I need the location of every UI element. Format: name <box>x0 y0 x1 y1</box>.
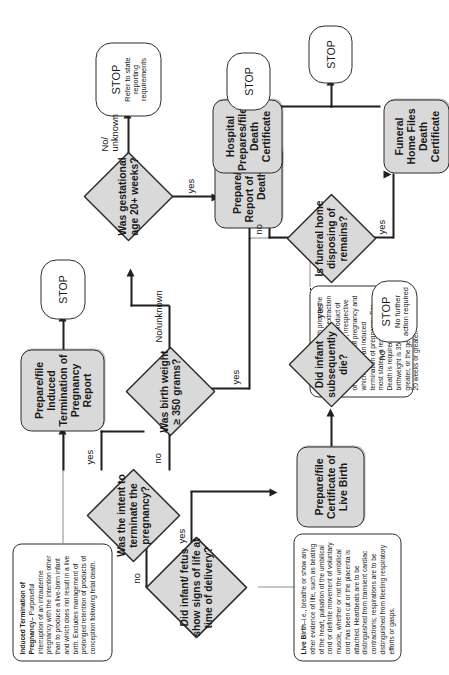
decision-infant-died[interactable]: Did infant subsequently die? <box>288 321 374 407</box>
decision-signs-of-life-label: Did infant/ fetus show signs of life at … <box>178 536 214 638</box>
note-induced-termination-text: Purposeful interruption of an intrauteri… <box>27 555 95 654</box>
decision-intent-terminate-label: Was the intent to terminate the pregnanc… <box>115 468 151 562</box>
arrow-infant-died <box>326 408 334 416</box>
edge-gestation-no-h <box>127 116 129 153</box>
edge-funeral-stop-v <box>330 106 380 108</box>
decision-birth-weight[interactable]: Was birth weight ≥ 350 grams? <box>125 346 215 436</box>
label-signs-no: no <box>131 573 141 583</box>
decision-infant-died-label: Did infant subsequently die? <box>313 321 349 407</box>
arrow-livebirth-cert <box>269 489 277 497</box>
edge-certs-stop-h <box>330 83 332 107</box>
process-funeral-home-death-certificate[interactable]: Funeral Home Files Death Certificate <box>383 99 449 173</box>
label-funeral-yes: yes <box>376 219 386 234</box>
edge-gestation-yes-v <box>171 196 214 198</box>
edge-intent-yes-h <box>100 430 102 470</box>
edge-weight-yes-v <box>211 388 249 390</box>
edge-funeral-yes-h <box>392 173 394 238</box>
terminator-stop-state-label: STOP <box>109 64 122 94</box>
decision-intent-terminate[interactable]: Was the intent to terminate the pregnanc… <box>86 468 180 562</box>
terminator-stop-state-sublabel: Refer to state reporting requirements <box>123 46 147 112</box>
note-live-birth-term: Live Birth <box>299 624 306 654</box>
decision-birth-weight-label: Was birth weight ≥ 350 grams? <box>158 346 182 436</box>
edge-weight-nounknown-h2 <box>130 274 132 306</box>
edge-itop-stop <box>62 319 64 349</box>
process-itop-report-label: Prepare/file Induced Termination of Preg… <box>32 353 93 427</box>
edge-intent-yes-h2 <box>62 432 64 470</box>
edge-weight-yes-h <box>248 209 250 389</box>
process-hospital-death-certificate-label: Hospital Prepares/files Death Certificat… <box>223 102 272 171</box>
process-live-birth-certificate[interactable]: Prepare/file Certificate of Live Birth <box>296 446 364 527</box>
label-weight-yes: yes <box>230 369 240 384</box>
terminator-stop-state[interactable]: STOP Refer to state reporting requiremen… <box>95 42 161 116</box>
decision-gestational-age[interactable]: Was gestational age 20+ weeks? <box>83 151 173 241</box>
terminator-stop-death-certificate-label: STOP <box>324 40 336 68</box>
arrow-gestational <box>126 268 134 276</box>
edge-signs-yes-v <box>190 491 272 493</box>
process-funeral-home-death-certificate-label: Funeral Home Files Death Certificate <box>392 103 441 169</box>
edge-livebirth-note-dotted <box>258 586 293 587</box>
terminator-stop-no-action-sublabel: No further action required <box>393 284 409 338</box>
decision-gestational-age-label: Was gestational age 20+ weeks? <box>116 151 140 241</box>
label-intent-no: no <box>152 453 162 463</box>
terminator-stop-fetal-death-label: STOP <box>242 67 254 95</box>
edge-weight-nounknown-h <box>168 305 170 349</box>
label-gestation-yes: yes <box>185 178 195 193</box>
label-gestation-no: No/ unknown <box>99 117 119 151</box>
process-live-birth-certificate-label: Prepare/file Certificate of Live Birth <box>312 450 349 523</box>
terminator-stop-fetal-death[interactable]: STOP <box>226 52 270 110</box>
terminator-stop-itop-label: STOP <box>56 275 68 303</box>
decision-funeral-home-label: Is funeral home disposing of remains? <box>313 193 349 283</box>
terminator-stop-itop[interactable]: STOP <box>40 259 85 319</box>
note-live-birth-text: –i.e., breathe or show any other evidenc… <box>299 542 394 654</box>
terminator-stop-no-action[interactable]: STOP No further action required <box>371 280 417 342</box>
terminator-stop-death-certificate[interactable]: STOP <box>308 25 352 83</box>
label-died-yes: yes <box>314 303 324 318</box>
note-live-birth: Live Birth–i.e., breathe or show any oth… <box>293 533 401 661</box>
edge-cert-died-h <box>330 414 332 446</box>
terminator-stop-no-action-label: STOP <box>379 296 392 326</box>
label-died-no: no <box>376 350 386 360</box>
label-weight-no: No/unknown <box>153 290 163 342</box>
edge-funeral-no-v <box>268 237 288 239</box>
label-funeral-no: no <box>253 224 263 234</box>
label-intent-yes: yes <box>84 449 94 464</box>
process-itop-report[interactable]: Prepare/file Induced Termination of Preg… <box>20 349 104 431</box>
decision-funeral-home[interactable]: Is funeral home disposing of remains? <box>286 193 376 283</box>
